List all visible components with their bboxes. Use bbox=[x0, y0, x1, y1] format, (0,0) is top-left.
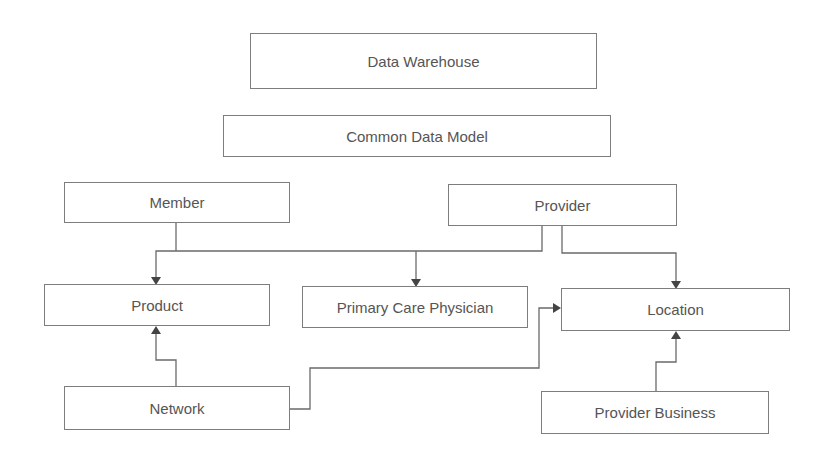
node-label: Provider bbox=[535, 197, 591, 214]
edge-bus-horizontal bbox=[156, 226, 542, 278]
node-primary-care-physician[interactable]: Primary Care Physician bbox=[302, 286, 528, 328]
node-member[interactable]: Member bbox=[64, 182, 290, 223]
node-label: Location bbox=[647, 301, 704, 318]
edge-provider-location bbox=[562, 226, 676, 281]
node-common-data-model[interactable]: Common Data Model bbox=[223, 115, 611, 157]
diagram-canvas: Data Warehouse Common Data Model Member … bbox=[0, 0, 838, 466]
arrowhead-product-bottom bbox=[151, 326, 161, 334]
arrowhead-location-left bbox=[553, 303, 561, 313]
node-label: Network bbox=[149, 400, 204, 417]
node-label: Primary Care Physician bbox=[337, 299, 494, 316]
node-label: Provider Business bbox=[595, 404, 716, 421]
node-provider-business[interactable]: Provider Business bbox=[541, 391, 769, 434]
node-location[interactable]: Location bbox=[561, 288, 790, 331]
node-data-warehouse[interactable]: Data Warehouse bbox=[250, 33, 597, 89]
node-provider[interactable]: Provider bbox=[448, 184, 677, 226]
node-label: Data Warehouse bbox=[367, 53, 479, 70]
node-label: Product bbox=[131, 297, 183, 314]
edge-network-product bbox=[156, 334, 176, 386]
node-label: Member bbox=[149, 194, 204, 211]
node-network[interactable]: Network bbox=[64, 386, 290, 430]
arrowhead-location-bottom bbox=[671, 331, 681, 339]
node-label: Common Data Model bbox=[346, 128, 488, 145]
node-product[interactable]: Product bbox=[44, 284, 270, 326]
edge-providerbusiness-location bbox=[656, 339, 676, 391]
